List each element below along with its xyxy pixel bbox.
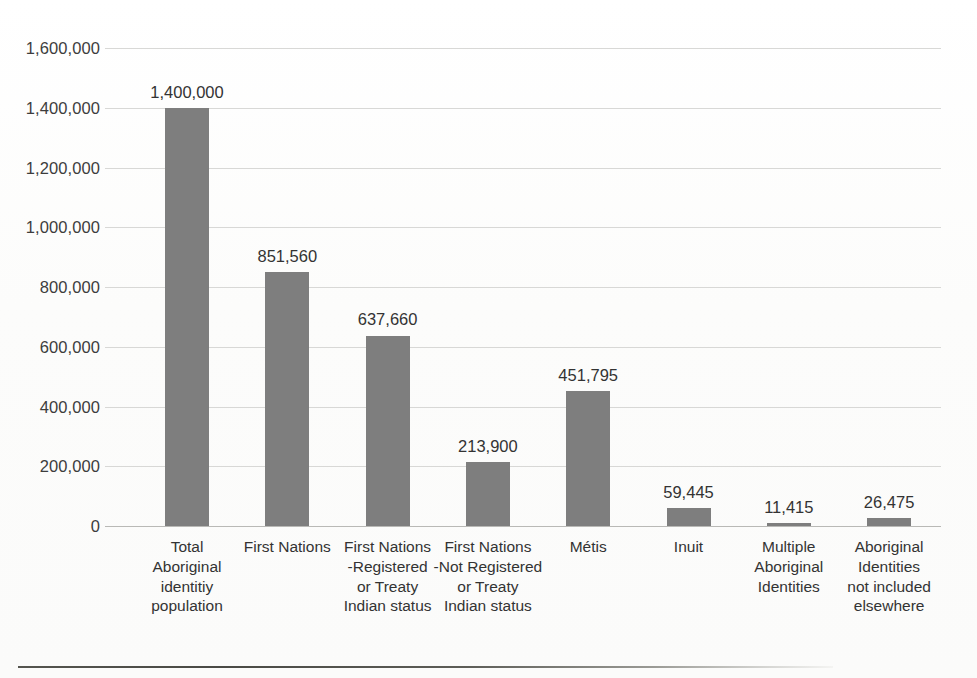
bar-slot bbox=[265, 48, 309, 526]
x-category-label-line: Multiple bbox=[732, 537, 846, 557]
x-category-label-line: Indian status bbox=[431, 596, 545, 616]
bar[interactable] bbox=[767, 523, 811, 526]
bar-slot bbox=[867, 48, 911, 526]
x-category-label: Inuit bbox=[632, 537, 746, 557]
bar-value-label: 26,475 bbox=[829, 494, 949, 511]
x-category-label-line: population bbox=[130, 596, 244, 616]
bar-value-label: 213,900 bbox=[428, 438, 548, 455]
x-category-label-line: First Nations bbox=[230, 537, 344, 557]
x-category-label-line: Identities bbox=[732, 577, 846, 597]
bar-chart: 1,600,0001,400,0001,200,0001,000,000800,… bbox=[0, 0, 977, 678]
bar[interactable] bbox=[466, 462, 510, 526]
bar-slot bbox=[767, 48, 811, 526]
bar-slot bbox=[366, 48, 410, 526]
bar[interactable] bbox=[867, 518, 911, 526]
x-category-label-line: elsewhere bbox=[832, 596, 946, 616]
x-category-label-line: not included bbox=[832, 577, 946, 597]
axis-baseline bbox=[105, 526, 941, 527]
x-category-label-line: First Nations bbox=[431, 537, 545, 557]
x-category-label-line: or Treaty bbox=[431, 577, 545, 597]
x-category-label: MultipleAboriginalIdentities bbox=[732, 537, 846, 596]
x-category-label-line: or Treaty bbox=[331, 577, 445, 597]
x-category-label-line: Aboriginal bbox=[732, 557, 846, 577]
x-category-label-line: Identities bbox=[832, 557, 946, 577]
x-category-label-line: Métis bbox=[531, 537, 645, 557]
bar[interactable] bbox=[366, 336, 410, 527]
bar-slot bbox=[165, 48, 209, 526]
x-category-label-line: -Not Registered bbox=[431, 557, 545, 577]
x-category-label-line: Aboriginal bbox=[130, 557, 244, 577]
bar-value-label: 1,400,000 bbox=[127, 84, 247, 101]
bar[interactable] bbox=[667, 508, 711, 526]
chart-page: 1,600,0001,400,0001,200,0001,000,000800,… bbox=[0, 0, 977, 678]
x-category-label-line: Indian status bbox=[331, 596, 445, 616]
x-category-label: First Nations bbox=[230, 537, 344, 557]
x-category-label-line: -Registered bbox=[331, 557, 445, 577]
bar-slot bbox=[566, 48, 610, 526]
x-category-label: First Nations-Not Registeredor TreatyInd… bbox=[431, 537, 545, 616]
x-category-label: First Nations-Registeredor TreatyIndian … bbox=[331, 537, 445, 616]
bar-value-label: 451,795 bbox=[528, 367, 648, 384]
x-category-label: TotalAboriginalidentitiypopulation bbox=[130, 537, 244, 616]
bar[interactable] bbox=[165, 108, 209, 526]
bottom-divider-rule bbox=[18, 666, 833, 668]
x-category-label-line: Aboriginal bbox=[832, 537, 946, 557]
x-category-label-line: identitiy bbox=[130, 577, 244, 597]
x-category-label-line: Inuit bbox=[632, 537, 746, 557]
bar[interactable] bbox=[566, 391, 610, 526]
bar[interactable] bbox=[265, 272, 309, 526]
x-category-label-line: First Nations bbox=[331, 537, 445, 557]
x-category-label-line: Total bbox=[130, 537, 244, 557]
x-category-label: Métis bbox=[531, 537, 645, 557]
x-category-label: AboriginalIdentitiesnot includedelsewher… bbox=[832, 537, 946, 616]
bar-value-label: 851,560 bbox=[227, 248, 347, 265]
bar-value-label: 637,660 bbox=[328, 311, 448, 328]
bar-slot bbox=[667, 48, 711, 526]
